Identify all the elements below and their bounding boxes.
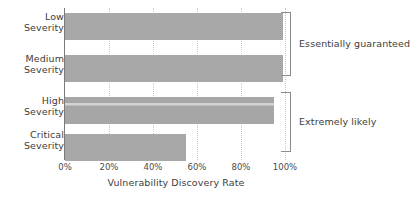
y-axis-label-line-1: Medium (6, 53, 64, 64)
y-axis-label-line-2: Severity (6, 106, 64, 117)
x-tick-0: 0% (45, 162, 85, 172)
y-axis-label-critical-severity: Critical Severity (6, 129, 64, 151)
bar-low-severity (65, 13, 283, 40)
x-tick-60: 60% (177, 162, 217, 172)
bracket-extremely-likely (281, 92, 291, 152)
y-axis-label-line-2: Severity (6, 64, 64, 75)
y-axis-label-line-1: High (6, 95, 64, 106)
vulnerability-discovery-rate-chart: Low Severity Medium Severity High Severi… (0, 0, 417, 197)
x-tick-40: 40% (133, 162, 173, 172)
y-axis-label-low-severity: Low Severity (6, 11, 64, 33)
y-axis-label-line-1: Low (6, 11, 64, 22)
bracket-essentially-guaranteed (281, 12, 291, 76)
x-axis-title: Vulnerability Discovery Rate (64, 177, 288, 188)
y-axis-label-line-2: Severity (6, 22, 64, 33)
plot-area (64, 8, 288, 160)
bar-high-severity (65, 97, 274, 124)
y-axis-label-line-1: Critical (6, 129, 64, 140)
annotation-essentially-guaranteed: Essentially guaranteed (299, 38, 410, 49)
y-axis-label-high-severity: High Severity (6, 95, 64, 117)
y-axis-label-line-2: Severity (6, 140, 64, 151)
annotation-extremely-likely: Extremely likely (299, 116, 376, 127)
bar-critical-severity (65, 134, 186, 161)
bar-medium-severity (65, 55, 283, 82)
x-tick-100: 100% (265, 162, 305, 172)
x-tick-20: 20% (89, 162, 129, 172)
x-tick-80: 80% (221, 162, 261, 172)
y-axis-label-medium-severity: Medium Severity (6, 53, 64, 75)
